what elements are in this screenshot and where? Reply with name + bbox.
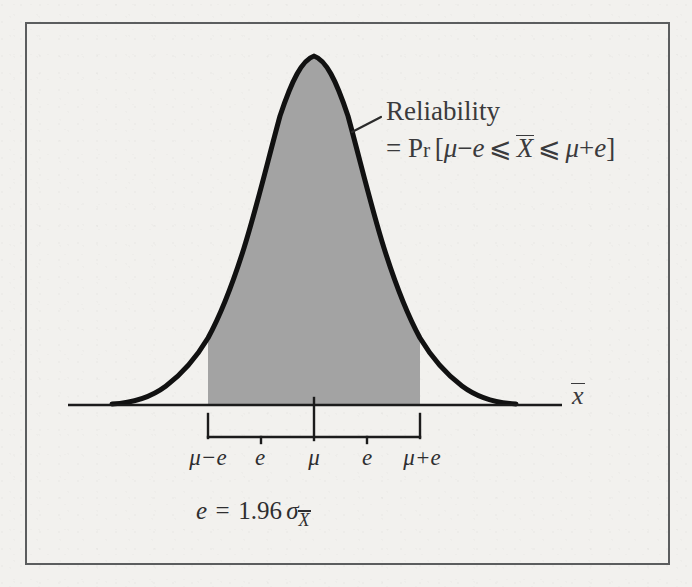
annotation-leader-line (352, 117, 381, 132)
formula-open-bracket: [ (435, 133, 444, 163)
equation-sigma-subscript-xbar: X (299, 510, 310, 529)
tick-label-mu-plus-e: μ+e (382, 445, 462, 471)
equation-coefficient: 1.96 (238, 497, 282, 524)
formula-mu-lower: μ (444, 133, 458, 163)
equation-lhs-e: e (196, 497, 207, 524)
formula-pr-subletter: r (423, 138, 430, 162)
formula-close-bracket: ] (606, 133, 615, 163)
x-axis-label-text: x (572, 382, 584, 409)
formula-equals-pr: = P (386, 133, 423, 163)
annotation-formula: = Pr[μ−e⩽X⩽μ+e] (386, 134, 615, 162)
formula-mu-upper: μ (565, 133, 579, 163)
annotation-title: Reliability (386, 98, 500, 125)
tick-label-mu-minus-e: μ−e (168, 445, 248, 471)
figure-page: Reliability = Pr[μ−e⩽X⩽μ+e] x μ−e e μ e … (0, 0, 692, 587)
equation-equals-sign: = (216, 497, 230, 524)
error-margin-equation: e=1.96σX (196, 498, 310, 529)
normal-curve-figure (0, 0, 692, 587)
formula-e-upper: e (594, 133, 606, 163)
tick-label-e-left: e (240, 445, 280, 471)
formula-plus-sign: + (579, 133, 594, 163)
formula-le-left: ⩽ (489, 133, 512, 163)
x-axis-label: x (572, 382, 584, 409)
tick-label-e-right: e (347, 445, 387, 471)
tick-label-mu: μ (294, 445, 334, 471)
formula-minus-sign: − (457, 133, 472, 163)
formula-e-lower: e (473, 133, 485, 163)
formula-xbar-variable: X (517, 134, 534, 162)
formula-le-right: ⩽ (538, 133, 561, 163)
